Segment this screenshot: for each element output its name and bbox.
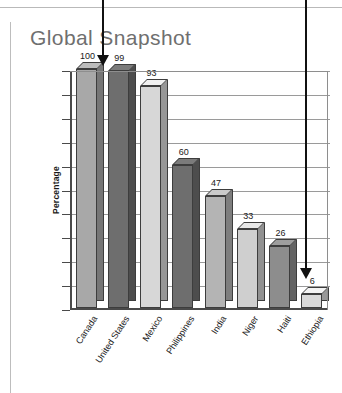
y-axis-title: Percentage	[51, 166, 61, 214]
y-tick-mark	[62, 310, 70, 311]
scanned-chart-page: Global Snapshot 1009993604733266 Percent…	[0, 0, 342, 393]
chart-bar-value: 100	[80, 51, 95, 61]
chart-bar: 93	[140, 86, 161, 308]
y-tick-mark	[62, 119, 70, 120]
chart-bar: 47	[205, 196, 226, 308]
page-title: Global Snapshot	[30, 26, 191, 50]
chart-bar: 33	[237, 229, 258, 308]
chart-bar: 26	[269, 246, 290, 308]
chart-bar-side	[193, 158, 200, 301]
x-tick-label: Mexico	[140, 314, 164, 343]
y-tick-mark	[62, 238, 70, 239]
chart-bar-side	[258, 222, 265, 301]
page-top-rule	[0, 7, 342, 8]
chart-bar-front	[237, 229, 258, 308]
chart-bar-side	[161, 79, 168, 301]
x-tick-label: Canada	[74, 314, 100, 346]
y-tick-mark	[62, 71, 70, 72]
page-left-rule	[10, 22, 11, 393]
chart-bar-value: 47	[211, 178, 221, 188]
x-tick-label: India	[209, 314, 228, 336]
y-tick-mark	[62, 262, 70, 263]
chart-bar-side	[97, 62, 104, 301]
chart-bar-value: 99	[114, 53, 124, 63]
x-tick-label: Philippines	[164, 314, 196, 356]
chart-bar: 99	[108, 71, 129, 308]
x-tick-label: Haiti	[275, 314, 293, 335]
y-tick-mark	[62, 167, 70, 168]
chart-bar-side	[290, 239, 297, 301]
chart-bar: 6	[301, 294, 322, 308]
x-tick-label: United States	[94, 314, 132, 365]
chart-bar-front	[108, 71, 129, 308]
chart-bar-front	[76, 69, 97, 308]
y-tick-mark	[62, 214, 70, 215]
chart-bar: 60	[172, 165, 193, 308]
chart-bar-value: 60	[179, 147, 189, 157]
chart-bar-front	[269, 246, 290, 308]
chart-bar-front	[172, 165, 193, 308]
x-tick-label: Ethiopia	[299, 314, 325, 347]
chart-bar-side	[226, 189, 233, 301]
y-tick-mark	[62, 286, 70, 287]
chart-bar-side	[129, 64, 136, 301]
chart-bar-front	[301, 294, 322, 308]
chart-bar-front	[205, 196, 226, 308]
chart-bar-value: 33	[243, 211, 253, 221]
chart-plot-area: 1009993604733266 Percentage	[70, 71, 328, 310]
chart-bar-front	[140, 86, 161, 308]
x-tick-label: Niger	[241, 314, 261, 337]
chart-bar-value: 93	[147, 68, 157, 78]
chart-bar-value: 26	[276, 228, 286, 238]
y-tick-mark	[62, 143, 70, 144]
y-tick-mark	[62, 95, 70, 96]
chart-bar: 100	[76, 69, 97, 308]
y-tick-mark	[62, 191, 70, 192]
